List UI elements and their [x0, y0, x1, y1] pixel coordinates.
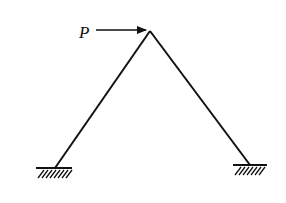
right-member — [150, 31, 250, 165]
load-label: P — [78, 23, 89, 42]
left-fixed-support-icon — [36, 168, 72, 178]
frame-diagram: P — [0, 0, 286, 203]
left-member — [55, 31, 150, 168]
right-fixed-support-icon — [233, 165, 267, 175]
